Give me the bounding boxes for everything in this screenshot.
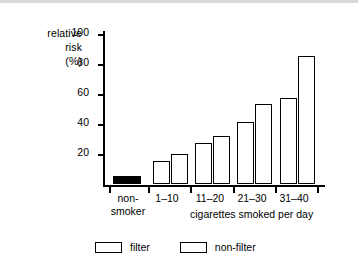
legend-item-filter: filter bbox=[95, 241, 150, 253]
x-group-label-nonsmoker-line-2: smoker bbox=[103, 205, 153, 218]
y-tick-60: 60 bbox=[98, 94, 104, 96]
y-tick-label-40: 40 bbox=[59, 116, 89, 128]
chart-legend: filter non-filter bbox=[95, 241, 256, 253]
y-tick-label-20: 20 bbox=[59, 146, 89, 158]
x-axis-caption: cigarettes smoked per day bbox=[190, 208, 313, 220]
bar-11-20-nonfilter bbox=[213, 136, 230, 184]
y-tick-20: 20 bbox=[98, 154, 104, 156]
bar-31-40-nonfilter bbox=[298, 56, 315, 184]
x-axis-line bbox=[103, 185, 325, 187]
legend-swatch-filter-icon bbox=[95, 242, 122, 253]
plot-area: 20 40 60 80 100 bbox=[103, 31, 325, 186]
legend-label-filter: filter bbox=[130, 241, 150, 253]
y-tick-100: 100 bbox=[98, 34, 104, 36]
bar-21-30-filter bbox=[237, 122, 254, 184]
y-tick-label-80: 80 bbox=[59, 56, 89, 68]
bar-31-40-filter bbox=[280, 98, 297, 184]
bar-1-10-nonfilter bbox=[171, 154, 188, 184]
x-group-label-21-30: 21–30 bbox=[229, 192, 275, 205]
y-tick-label-60: 60 bbox=[59, 86, 89, 98]
chart-figure: relative risk (%) 20 40 60 80 100 bbox=[0, 0, 358, 266]
bar-nonsmoker bbox=[113, 176, 141, 184]
y-tick-40: 40 bbox=[98, 124, 104, 126]
figure-top-edge bbox=[0, 0, 358, 3]
x-group-label-1-10: 1–10 bbox=[144, 192, 190, 205]
legend-item-nonfilter: non-filter bbox=[180, 241, 256, 253]
y-tick-label-100: 100 bbox=[59, 26, 89, 38]
x-tick-5 bbox=[317, 187, 319, 193]
x-group-label-31-40: 31–40 bbox=[271, 192, 317, 205]
bar-11-20-filter bbox=[195, 143, 212, 184]
y-axis-title-line-2: risk bbox=[8, 40, 82, 54]
legend-swatch-nonfilter-icon bbox=[180, 242, 207, 253]
y-axis-line bbox=[103, 31, 105, 187]
bar-1-10-filter bbox=[153, 161, 170, 184]
legend-label-nonfilter: non-filter bbox=[215, 241, 256, 253]
x-group-label-11-20: 11–20 bbox=[187, 192, 233, 205]
bar-21-30-nonfilter bbox=[255, 104, 272, 184]
y-tick-80: 80 bbox=[98, 64, 104, 66]
